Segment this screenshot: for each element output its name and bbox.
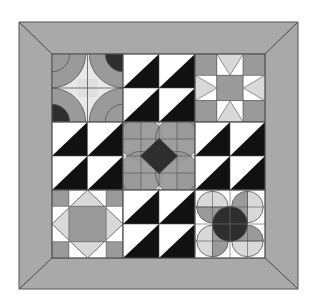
block-half-square-triangles bbox=[52, 122, 123, 190]
quilt-illustration bbox=[0, 0, 309, 303]
block-square-in-square bbox=[52, 190, 123, 258]
block-sawtooth-star bbox=[195, 54, 265, 122]
block-half-square-triangles bbox=[195, 122, 265, 190]
block-pinwheel-circles bbox=[195, 190, 265, 258]
block-half-square-triangles bbox=[123, 54, 195, 122]
quilt-blocks bbox=[18, 20, 265, 258]
block-half-square-triangles bbox=[123, 190, 195, 258]
block-flower-diamond-center bbox=[119, 117, 198, 194]
